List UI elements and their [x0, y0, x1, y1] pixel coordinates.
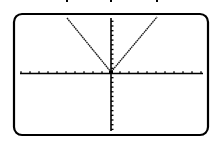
- vertex-marker: [109, 71, 113, 74]
- calculator-graph-screen: [0, 0, 224, 144]
